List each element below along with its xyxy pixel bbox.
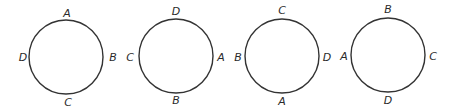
label-top: D (172, 5, 180, 18)
circle-3 (245, 19, 319, 93)
label-bottom: B (172, 94, 180, 107)
circle-arrangement-figure: A B C D D A B C C D A B B C D A (0, 0, 457, 111)
label-left: C (126, 51, 134, 64)
label-top: A (62, 7, 71, 20)
label-bottom: A (277, 95, 286, 108)
label-left: D (19, 51, 27, 64)
label-left: A (339, 50, 348, 63)
circle-4 (351, 18, 425, 92)
label-top: B (384, 3, 392, 16)
circle-1 (29, 20, 103, 94)
label-bottom: D (384, 94, 392, 107)
label-top: C (278, 4, 286, 17)
label-right: A (216, 51, 225, 64)
label-bottom: C (64, 96, 72, 109)
label-left: B (234, 51, 242, 64)
label-right: B (109, 51, 117, 64)
circle-diagram-3: C D A B (234, 4, 331, 108)
label-right: D (323, 51, 331, 64)
circle-diagram-4: B C D A (339, 3, 437, 107)
circle-diagram-1: A B C D (19, 7, 117, 109)
label-right: C (429, 50, 437, 63)
circle-2 (139, 19, 213, 93)
circle-diagram-2: D A B C (126, 5, 225, 107)
